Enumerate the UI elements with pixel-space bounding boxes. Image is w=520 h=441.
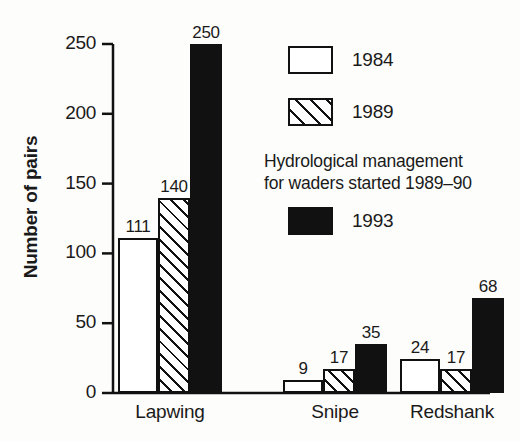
- x-category-label-redshank: Redshank: [382, 401, 520, 423]
- bar-value-snipe-1989: 17: [309, 348, 369, 368]
- legend-label-1989: 1989: [352, 101, 393, 123]
- y-tick-label-200: 200: [40, 102, 96, 124]
- y-tick-label-250: 250: [40, 32, 96, 54]
- bar-snipe-1984: [283, 380, 323, 393]
- bar-lapwing-1984: [118, 238, 158, 393]
- legend-swatch-1993: [288, 207, 333, 235]
- bar-lapwing-1993: [190, 44, 222, 393]
- annotation-line-2: for waders started 1989–90: [264, 172, 472, 194]
- y-tick-label-150: 150: [40, 172, 96, 194]
- x-category-label-lapwing: Lapwing: [100, 401, 240, 423]
- bar-chart: Number of pairs 050100150200250 11114025…: [0, 0, 520, 441]
- y-tick-label-50: 50: [40, 311, 96, 333]
- y-tick-label-0: 0: [40, 381, 96, 403]
- bar-redshank-1989: [440, 369, 472, 393]
- legend-label-1993: 1993: [352, 210, 393, 232]
- y-tick-label-100: 100: [40, 241, 96, 263]
- legend-label-1984: 1984: [352, 49, 393, 71]
- bar-value-lapwing-1989: 140: [144, 177, 204, 197]
- hydrological-management-annotation: Hydrological management for waders start…: [264, 150, 472, 194]
- annotation-line-1: Hydrological management: [264, 150, 472, 172]
- bar-value-redshank-1989: 17: [426, 348, 486, 368]
- bar-value-lapwing-1984: 111: [108, 217, 168, 237]
- legend-swatch-1989: [288, 98, 333, 126]
- legend-swatch-1984: [288, 46, 333, 74]
- bar-redshank-1993: [472, 298, 504, 393]
- bar-value-lapwing-1993: 250: [176, 23, 236, 43]
- bar-value-redshank-1993: 68: [458, 277, 518, 297]
